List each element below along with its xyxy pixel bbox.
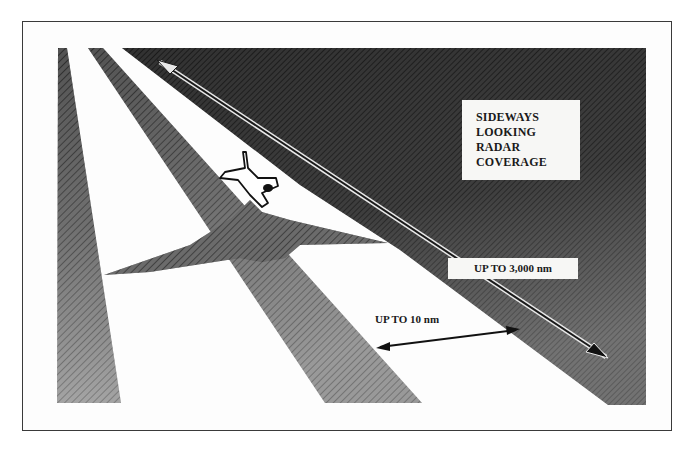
left-beam xyxy=(57,48,121,403)
diagram-title-box: SIDEWAYS LOOKING RADAR COVERAGE xyxy=(462,100,580,180)
short-range-label: UP TO 10 nm xyxy=(375,313,439,325)
title-line-1: SIDEWAYS xyxy=(476,110,580,125)
title-line-3: RADAR xyxy=(476,140,580,155)
title-line-2: LOOKING xyxy=(476,125,580,140)
radar-coverage-illustration xyxy=(0,0,688,456)
title-line-4: COVERAGE xyxy=(476,155,580,170)
long-range-label: UP TO 3,000 nm xyxy=(448,258,578,279)
short-range-arrow xyxy=(376,326,520,351)
